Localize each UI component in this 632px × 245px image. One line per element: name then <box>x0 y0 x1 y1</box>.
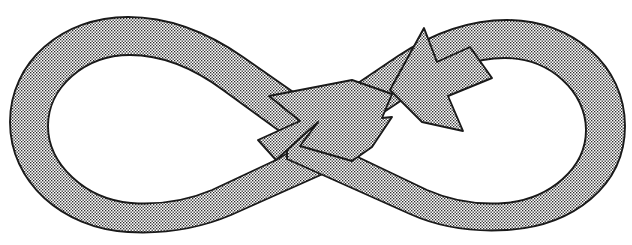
infinity-loop-diagram: Figure-eight loop with arrowhead A conti… <box>0 0 632 245</box>
figure-root: Figure-eight loop with arrowhead A conti… <box>0 0 632 245</box>
band-group <box>10 17 625 232</box>
